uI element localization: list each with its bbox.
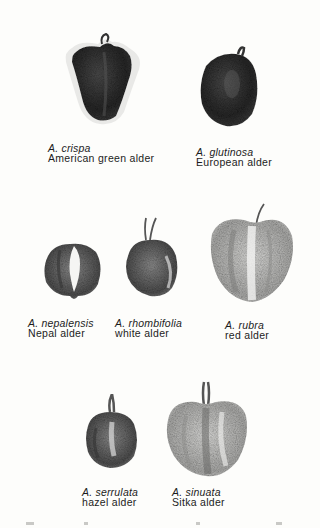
common-name: red alder <box>225 330 269 340</box>
common-name: hazel alder <box>82 497 138 507</box>
seed-image-crispa <box>60 32 144 127</box>
cropped-text-fragment <box>276 522 282 525</box>
specimen-label-crispa: A. crispa American green alder <box>48 143 154 163</box>
seed-image-serrulata <box>82 394 140 470</box>
seed-image-nepalensis <box>40 238 104 302</box>
seed-image-rhombifolia <box>122 216 180 300</box>
cropped-text-fragment <box>196 522 200 525</box>
cropped-text-fragment <box>26 522 34 525</box>
common-name: white alder <box>115 328 182 338</box>
specimen-label-rhombifolia: A. rhombifolia white alder <box>115 318 182 338</box>
specimen-label-nepalensis: A. nepalensis Nepal alder <box>28 318 94 338</box>
specimen-label-glutinosa: A. glutinosa European alder <box>196 147 272 167</box>
common-name: Nepal alder <box>28 328 94 338</box>
specimen-label-serrulata: A. serrulata hazel alder <box>82 487 138 507</box>
common-name: American green alder <box>48 153 154 163</box>
seed-image-rubra <box>206 200 296 304</box>
seed-image-glutinosa <box>196 44 262 130</box>
seed-image-sinuata <box>162 380 250 480</box>
common-name: European alder <box>196 157 272 167</box>
specimen-label-sinuata: A. sinuata Sitka alder <box>172 487 225 507</box>
specimen-label-rubra: A. rubra red alder <box>225 320 269 340</box>
cropped-text-fragment <box>84 522 88 525</box>
common-name: Sitka alder <box>172 497 225 507</box>
